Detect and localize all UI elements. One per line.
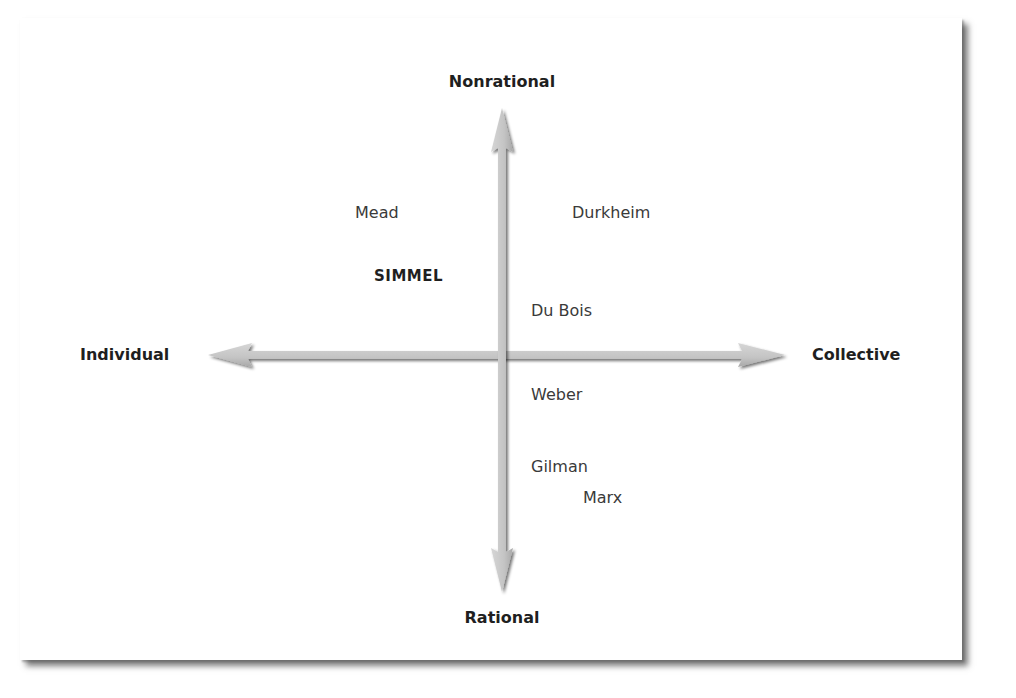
axis-label-nonrational: Nonrational xyxy=(449,74,555,90)
vertical-axis-arrow xyxy=(491,108,513,592)
theorist-weber: Weber xyxy=(531,387,582,403)
theorist-mead: Mead xyxy=(355,205,399,221)
theorist-durkheim: Durkheim xyxy=(572,205,650,221)
axis-label-rational: Rational xyxy=(465,610,540,626)
horizontal-axis-arrow xyxy=(208,343,785,367)
theorist-gilman: Gilman xyxy=(531,459,588,475)
axis-label-collective: Collective xyxy=(812,347,900,363)
theorist-marx: Marx xyxy=(583,490,622,506)
axis-label-individual: Individual xyxy=(80,347,169,363)
theorist-du-bois: Du Bois xyxy=(531,303,592,319)
theorist-simmel: SIMMEL xyxy=(374,269,443,284)
